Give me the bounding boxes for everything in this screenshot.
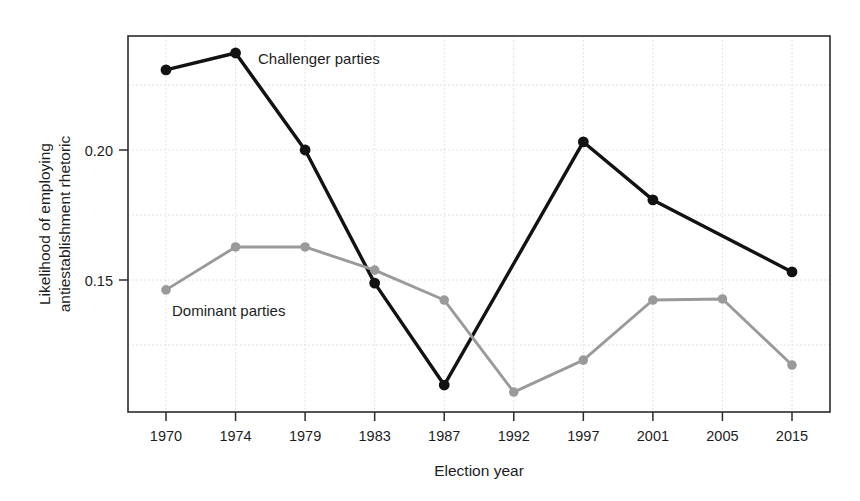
x-tick-label: 1997 (567, 428, 599, 444)
chart-figure: 0.200.15 1970197419791983198719921997200… (0, 0, 860, 501)
data-point-marker (161, 65, 172, 76)
x-tick-label: 1983 (359, 428, 391, 444)
data-point-marker (369, 278, 380, 289)
x-tick-label: 1992 (498, 428, 530, 444)
x-tick-label: 1987 (428, 428, 460, 444)
series-label-annotation: Dominant parties (172, 302, 285, 319)
data-point-marker (787, 360, 797, 370)
data-point-marker (579, 355, 589, 365)
data-point-marker (370, 265, 380, 275)
data-point-marker (231, 242, 241, 252)
data-point-marker (578, 137, 589, 148)
data-point-marker (787, 267, 798, 278)
y-axis-title-line2: antiestablishment rhetoric (56, 135, 73, 312)
y-tick-label: 0.15 (85, 273, 113, 289)
y-axis-title-line1: Likelihood of employing (36, 143, 53, 305)
x-axis-title: Election year (434, 462, 524, 479)
data-point-marker (439, 295, 449, 305)
data-point-marker (161, 285, 171, 295)
data-point-marker (647, 195, 658, 206)
data-point-marker (300, 242, 310, 252)
x-tick-label: 1970 (150, 428, 182, 444)
x-tick-label: 1974 (219, 428, 251, 444)
y-tick-label: 0.20 (85, 143, 113, 159)
data-point-marker (509, 387, 519, 397)
series-label-annotation: Challenger parties (258, 50, 380, 67)
x-tick-label: 2015 (776, 428, 808, 444)
chart-background (0, 0, 860, 501)
x-tick-label: 2005 (706, 428, 738, 444)
x-tick-label: 2001 (637, 428, 669, 444)
data-point-marker (230, 48, 241, 59)
data-point-marker (648, 295, 658, 305)
data-point-marker (718, 294, 728, 304)
line-chart: 0.200.15 1970197419791983198719921997200… (0, 0, 860, 501)
data-point-marker (300, 145, 311, 156)
data-point-marker (439, 380, 450, 391)
x-tick-label: 1979 (289, 428, 321, 444)
